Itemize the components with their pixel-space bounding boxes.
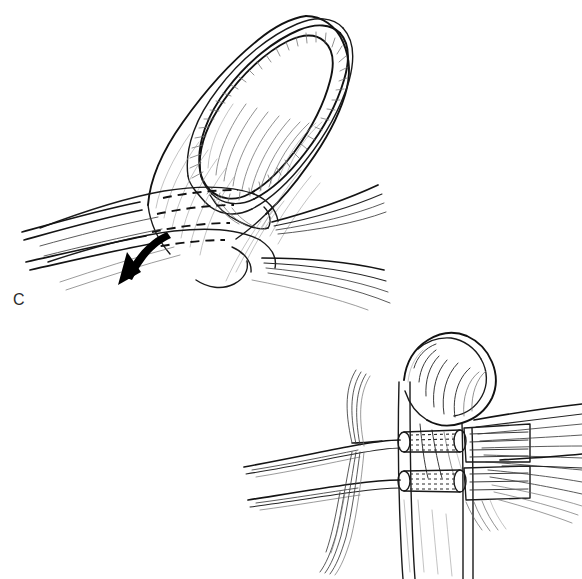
figure-illustration <box>0 0 582 579</box>
panel-label-c: C <box>13 292 25 308</box>
surgical-figure: C <box>0 0 582 579</box>
